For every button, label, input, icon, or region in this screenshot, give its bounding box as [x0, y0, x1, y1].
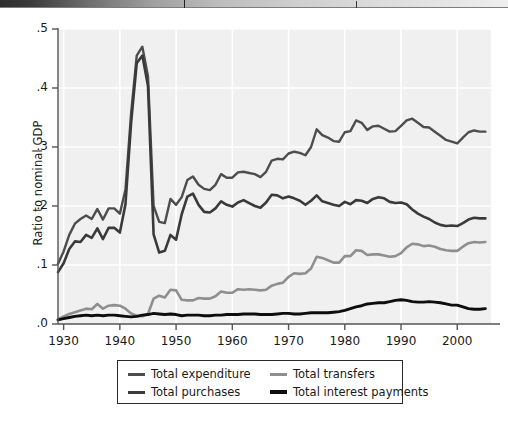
- x-axis-tick-label: 1970: [264, 334, 314, 348]
- x-axis-tick-label: 1960: [207, 334, 257, 348]
- x-axis-tick-label: 2000: [432, 334, 482, 348]
- legend-item-label: Total expenditure: [151, 367, 251, 381]
- line-chart-plot: [0, 0, 508, 421]
- legend-item-label: Total interest payments: [293, 385, 429, 399]
- legend-item[interactable]: Total interest payments: [270, 385, 429, 399]
- y-axis-tick-label: .2: [18, 198, 48, 212]
- y-axis-tick-label: .3: [18, 139, 48, 153]
- legend-color-swatch: [128, 373, 145, 376]
- plot-background: [58, 29, 491, 324]
- y-axis-tick-label: .1: [18, 257, 48, 271]
- x-axis-tick-label: 1980: [320, 334, 370, 348]
- y-axis-tick-label: .0: [18, 316, 48, 330]
- legend-item-label: Total transfers: [293, 367, 375, 381]
- legend-color-swatch: [128, 391, 145, 394]
- legend-item[interactable]: Total transfers: [270, 367, 375, 381]
- legend-color-swatch: [270, 390, 287, 394]
- legend-item[interactable]: Total purchases: [128, 385, 240, 399]
- y-axis-tick-label: .4: [18, 80, 48, 94]
- legend-color-swatch: [270, 373, 287, 376]
- y-axis-tick-label: .5: [18, 21, 48, 35]
- x-axis-tick-label: 1990: [376, 334, 426, 348]
- chart-legend: Total expenditureTotal transfersTotal pu…: [117, 360, 403, 404]
- x-axis-tick-label: 1930: [39, 334, 89, 348]
- x-axis-tick-label: 1940: [95, 334, 145, 348]
- y-axis-title: Ratio to nominal GDP: [31, 83, 45, 283]
- chart-figure: Ratio to nominal GDP .5.4.3.2.1.0 193019…: [0, 0, 508, 421]
- legend-item-label: Total purchases: [151, 385, 240, 399]
- legend-item[interactable]: Total expenditure: [128, 367, 251, 381]
- x-axis-tick-label: 1950: [151, 334, 201, 348]
